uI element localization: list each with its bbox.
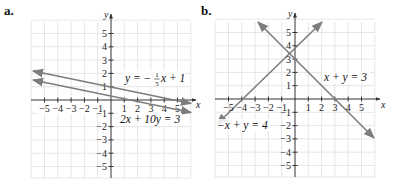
panel-b-equation-2: −x + y = 4 xyxy=(216,119,270,132)
svg-text:−2: −2 xyxy=(280,120,291,131)
svg-text:5: 5 xyxy=(359,102,364,113)
svg-text:2: 2 xyxy=(319,102,324,113)
svg-text:−5: −5 xyxy=(96,161,107,172)
svg-text:−4: −4 xyxy=(96,148,107,159)
svg-text:1: 1 xyxy=(306,102,311,113)
panel-b-x-axis-name: x xyxy=(380,99,386,110)
svg-text:−1: −1 xyxy=(96,108,107,119)
svg-text:−5: −5 xyxy=(280,160,291,171)
graphs-canvas: −5 −4 −3 −2 −1 1 2 3 4 5 5 4 3 2 1 −1 −2… xyxy=(0,0,399,186)
panel-b-graph: −5 −4 −3 −2 −1 1 2 3 4 5 5 4 3 2 1 −1 −2… xyxy=(196,8,386,177)
svg-text:3: 3 xyxy=(102,55,107,66)
svg-text:−2: −2 xyxy=(263,102,274,113)
panel-a-graph: −5 −4 −3 −2 −1 1 2 3 4 5 5 4 3 2 1 −1 −2… xyxy=(31,9,201,178)
svg-text:5: 5 xyxy=(155,80,159,88)
svg-text:−3: −3 xyxy=(250,102,261,113)
svg-text:5: 5 xyxy=(102,28,107,39)
svg-text:−3: −3 xyxy=(280,133,291,144)
svg-text:4: 4 xyxy=(102,41,107,52)
panel-a-equation-1: y = − 1 5 x + 1 xyxy=(123,70,185,88)
svg-text:4: 4 xyxy=(346,102,351,113)
svg-text:−2: −2 xyxy=(96,121,107,132)
svg-text:4: 4 xyxy=(286,40,291,51)
svg-text:−5: −5 xyxy=(39,103,50,114)
svg-text:−4: −4 xyxy=(236,102,247,113)
svg-text:−5: −5 xyxy=(223,102,234,113)
svg-text:−3: −3 xyxy=(66,103,77,114)
svg-text:1: 1 xyxy=(155,71,159,79)
panel-b-equation-1: x + y = 3 xyxy=(322,71,370,84)
svg-text:−4: −4 xyxy=(280,147,291,158)
svg-text:x + 1: x + 1 xyxy=(160,72,185,84)
svg-text:x + y = 3: x + y = 3 xyxy=(323,71,367,84)
svg-text:−4: −4 xyxy=(52,103,63,114)
svg-text:−3: −3 xyxy=(96,134,107,145)
panel-b-y-axis-name: y xyxy=(287,8,293,19)
svg-text:3: 3 xyxy=(332,102,337,113)
svg-text:−1: −1 xyxy=(280,107,291,118)
svg-text:1: 1 xyxy=(286,80,291,91)
svg-text:5: 5 xyxy=(286,27,291,38)
svg-text:−x + y = 4: −x + y = 4 xyxy=(217,119,268,132)
svg-text:−2: −2 xyxy=(79,103,90,114)
svg-text:2: 2 xyxy=(102,68,107,79)
svg-text:2x + 10y = 3: 2x + 10y = 3 xyxy=(120,113,180,126)
panel-a-y-axis-name: y xyxy=(103,9,109,20)
svg-text:y = −: y = − xyxy=(124,72,151,85)
svg-text:3: 3 xyxy=(286,54,291,65)
svg-text:2: 2 xyxy=(286,67,291,78)
panel-a-equation-2: 2x + 10y = 3 xyxy=(118,113,182,126)
